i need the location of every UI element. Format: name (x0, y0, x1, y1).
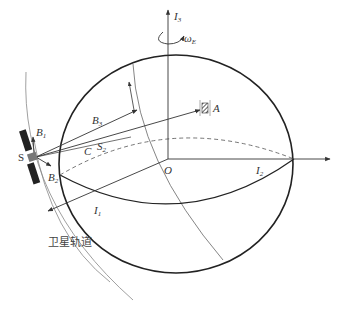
rotation-arrow (159, 32, 184, 44)
satellite-earth-diagram: I3 ωE A B3 B1 C S2 S B2 O I2 I1 卫星轨道 (0, 0, 342, 315)
label-s2: S2 (97, 140, 107, 154)
label-i2: I2 (255, 164, 264, 178)
orbit-inner-arc (26, 72, 133, 300)
label-origin-o: O (164, 164, 172, 176)
target-a-marker (202, 103, 208, 113)
label-b3: B3 (92, 114, 103, 128)
label-i1: I1 (93, 204, 101, 218)
meridian-arrow (129, 82, 134, 110)
meridian-arc (133, 64, 223, 260)
label-satellite-s: S (18, 151, 24, 163)
beam-b1 (33, 137, 34, 154)
beam-to-a (36, 110, 200, 157)
label-b1: B1 (36, 126, 46, 140)
label-b2: B2 (48, 171, 59, 185)
label-orbit: 卫星轨道 (48, 235, 92, 249)
label-omega: ωE (184, 32, 197, 46)
label-c: C (84, 145, 92, 157)
label-i3: I3 (173, 10, 182, 24)
label-target-a: A (212, 102, 220, 114)
